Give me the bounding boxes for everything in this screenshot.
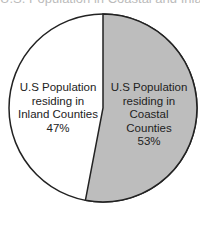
label-line: U.S Population <box>104 81 194 95</box>
label-percent: 47% <box>12 122 104 136</box>
slice-label-inland: U.S Population residing in Inland Counti… <box>12 81 104 135</box>
label-line: residing in <box>104 95 194 109</box>
label-line: Counties <box>104 122 194 136</box>
label-line: residing in <box>12 95 104 109</box>
label-percent: 53% <box>104 135 194 149</box>
slice-label-coastal: U.S Population residing in Coastal Count… <box>104 81 194 149</box>
label-line: Coastal <box>104 108 194 122</box>
label-line: U.S Population <box>12 81 104 95</box>
label-line: Inland Counties <box>12 108 104 122</box>
